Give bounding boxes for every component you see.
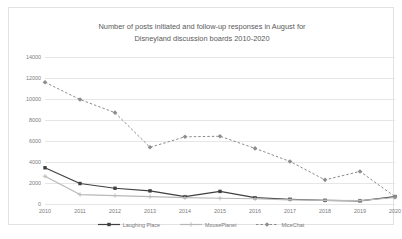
data-point-marker: [218, 196, 222, 200]
chart-title-line-1: Number of posts initiated and follow-up …: [49, 21, 355, 33]
data-point-marker: [107, 223, 110, 226]
data-point-marker: [358, 169, 363, 174]
data-point-marker: [148, 189, 151, 192]
series-micechat: [43, 80, 398, 199]
legend-swatch: [180, 221, 202, 228]
x-axis-tick-label: 2017: [284, 208, 296, 214]
x-axis-tick-label: 2016: [249, 208, 261, 214]
y-axis-tick-label: 0: [11, 201, 41, 207]
data-point-marker: [148, 194, 152, 198]
chart-title: Number of posts initiated and follow-up …: [49, 21, 355, 44]
legend-item-micechat[interactable]: MiceChat: [256, 221, 304, 228]
chart-legend: Laughing PlaceMousePlanetMiceChat: [9, 221, 393, 228]
x-axis-tick-label: 2015: [214, 208, 226, 214]
y-axis-tick-label: 8000: [11, 117, 41, 123]
legend-item-mouseplanet[interactable]: MousePlanet: [180, 221, 236, 228]
x-axis-tick-label: 2013: [144, 208, 156, 214]
legend-swatch: [98, 221, 120, 228]
x-axis-tick-label: 2012: [109, 208, 121, 214]
series-layer: [45, 57, 395, 204]
legend-label: MousePlanet: [205, 222, 236, 228]
data-point-marker: [78, 182, 81, 185]
chart-container: Number of posts initiated and follow-up …: [8, 7, 394, 225]
legend-label: MiceChat: [281, 222, 304, 228]
y-axis-tick-label: 4000: [11, 159, 41, 165]
data-point-marker: [43, 166, 46, 169]
y-axis-tick-label: 12000: [11, 75, 41, 81]
data-point-marker: [218, 190, 221, 193]
legend-label: Laughing Place: [123, 222, 160, 228]
y-axis-tick-label: 2000: [11, 180, 41, 186]
data-point-marker: [288, 159, 293, 164]
data-point-marker: [253, 146, 258, 151]
data-point-marker: [43, 174, 47, 178]
data-point-marker: [43, 80, 48, 85]
series-mouseplanet: [43, 174, 397, 203]
data-point-marker: [218, 134, 223, 139]
x-axis-tick-label: 2018: [319, 208, 331, 214]
data-point-marker: [78, 97, 83, 102]
data-point-marker: [189, 222, 193, 226]
x-axis-tick-label: 2020: [389, 208, 401, 214]
y-axis-tick-label: 10000: [11, 96, 41, 102]
data-point-marker: [113, 187, 116, 190]
series-line: [45, 168, 395, 201]
y-axis-tick-label: 6000: [11, 138, 41, 144]
x-axis-tick-label: 2014: [179, 208, 191, 214]
plot-area: 02000400060008000100001200014000 2010201…: [45, 57, 395, 204]
legend-item-laughing-place[interactable]: Laughing Place: [98, 221, 160, 228]
chart-title-line-2: Disneyland discussion boards 2010-2020: [49, 33, 355, 45]
x-axis-tick-label: 2019: [354, 208, 366, 214]
data-point-marker: [265, 222, 270, 227]
x-axis-tick-label: 2010: [39, 208, 51, 214]
legend-swatch: [256, 221, 278, 228]
y-axis-tick-label: 14000: [11, 54, 41, 60]
data-point-marker: [78, 192, 82, 196]
data-point-marker: [113, 193, 117, 197]
data-point-marker: [323, 178, 328, 183]
series-line: [45, 82, 395, 196]
data-point-marker: [183, 135, 188, 140]
x-axis-tick-label: 2011: [74, 208, 86, 214]
gridline: [45, 204, 395, 205]
